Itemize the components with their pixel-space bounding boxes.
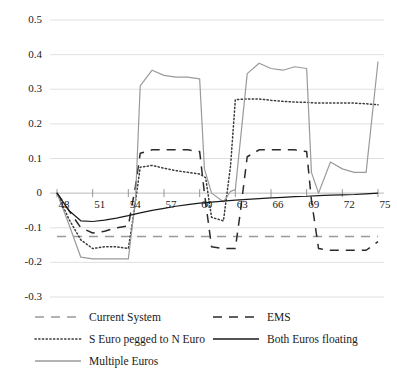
y-tick-label-5: 0 xyxy=(8,187,42,198)
y-tick-label-0: 0.5 xyxy=(8,14,42,25)
legend-label-multiple-euros: Multiple Euros xyxy=(89,355,158,367)
legend-swatch-ems xyxy=(212,311,260,323)
y-tick-label-3: 0.2 xyxy=(8,118,42,129)
y-tick-label-6: -0.1 xyxy=(8,222,42,233)
legend-item-s-euro-pegged: S Euro pegged to N Euro xyxy=(34,328,205,350)
x-tick-label-7: 69 xyxy=(301,199,327,210)
x-tick-label-1: 51 xyxy=(87,199,113,210)
x-tick-label-8: 72 xyxy=(336,199,362,210)
y-tick-label-1: 0.4 xyxy=(8,49,42,60)
y-tick-label-4: 0.1 xyxy=(8,153,42,164)
legend-item-ems: EMS xyxy=(212,306,358,328)
legend-swatch-current-system xyxy=(34,311,82,323)
legend-label-ems: EMS xyxy=(267,311,291,323)
legend-label-current-system: Current System xyxy=(89,311,161,323)
series-layer xyxy=(57,62,378,259)
y-tick-label-8: -0.3 xyxy=(8,291,42,302)
gridlines xyxy=(50,20,384,297)
legend-swatch-both-euros-floating xyxy=(212,333,260,345)
series-line-s-euro-pegged-to-n-euro xyxy=(57,99,378,249)
legend-item-both-euros-floating: Both Euros floating xyxy=(212,328,358,350)
x-tick-label-3: 57 xyxy=(158,199,184,210)
y-tick-label-2: 0.3 xyxy=(8,83,42,94)
x-tick-label-6: 66 xyxy=(265,199,291,210)
y-tick-label-7: -0.2 xyxy=(8,256,42,267)
x-tick-label-0: 48 xyxy=(51,199,77,210)
legend-item-current-system: Current System xyxy=(34,306,205,328)
x-tick-label-2: 54 xyxy=(122,199,148,210)
chart-legend: Current System S Euro pegged to N Euro M… xyxy=(0,306,397,373)
legend-label-both-euros-floating: Both Euros floating xyxy=(267,333,358,345)
legend-swatch-s-euro-pegged xyxy=(34,333,82,345)
x-tick-label-4: 60 xyxy=(194,199,220,210)
chart-container: 0.50.40.30.20.10-0.1-0.2-0.3 48515457606… xyxy=(0,0,397,373)
x-tick-label-5: 63 xyxy=(229,199,255,210)
legend-column-right: EMS Both Euros floating xyxy=(212,306,358,350)
series-line-multiple-euros xyxy=(57,62,378,259)
legend-item-multiple-euros: Multiple Euros xyxy=(34,350,205,372)
legend-label-s-euro-pegged: S Euro pegged to N Euro xyxy=(89,333,205,345)
legend-swatch-multiple-euros xyxy=(34,355,82,367)
x-tick-label-9: 75 xyxy=(372,199,397,210)
legend-column-left: Current System S Euro pegged to N Euro M… xyxy=(34,306,205,372)
